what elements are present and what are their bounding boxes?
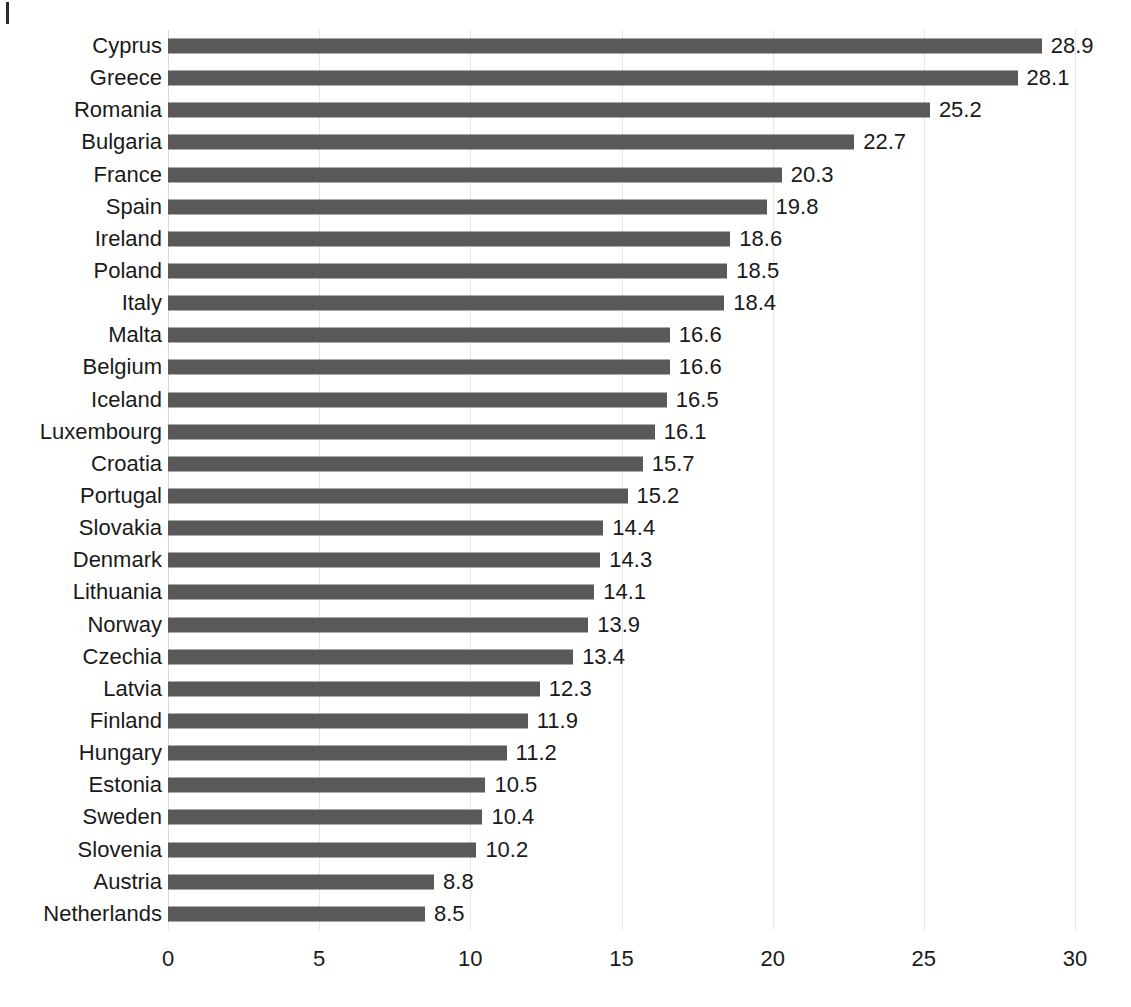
bar-row: Austria8.8 xyxy=(168,866,1075,898)
bar xyxy=(168,842,476,857)
category-label: Austria xyxy=(94,871,162,893)
bar xyxy=(168,553,600,568)
bar xyxy=(168,778,485,793)
x-tick-mark-5 xyxy=(319,922,320,930)
bar-row: Romania25.2 xyxy=(168,94,1075,126)
category-label: Italy xyxy=(122,292,162,314)
x-tick-label-15: 15 xyxy=(609,948,633,970)
bar-row: Finland11.9 xyxy=(168,705,1075,737)
x-tick-mark-30 xyxy=(1075,922,1076,930)
bar-row: Norway13.9 xyxy=(168,609,1075,641)
category-label: Finland xyxy=(90,710,162,732)
bar-value-label: 10.2 xyxy=(485,839,528,861)
category-label: Poland xyxy=(93,260,162,282)
category-label: Norway xyxy=(87,614,162,636)
bar xyxy=(168,71,1018,86)
category-label: Romania xyxy=(74,99,162,121)
category-label: Croatia xyxy=(91,453,162,475)
bar-row: Lithuania14.1 xyxy=(168,576,1075,608)
bar-value-label: 10.5 xyxy=(494,774,537,796)
bar-row: Poland18.5 xyxy=(168,255,1075,287)
x-tick-label-0: 0 xyxy=(162,948,174,970)
bar-value-label: 22.7 xyxy=(863,131,906,153)
bar-row: Hungary11.2 xyxy=(168,737,1075,769)
category-label: Latvia xyxy=(103,678,162,700)
x-tick-label-30: 30 xyxy=(1063,948,1087,970)
category-label: Czechia xyxy=(83,646,162,668)
x-axis: 051015202530 xyxy=(168,930,1075,990)
bar-value-label: 10.4 xyxy=(491,806,534,828)
bar-row: Sweden10.4 xyxy=(168,801,1075,833)
category-label: Bulgaria xyxy=(81,131,162,153)
bar xyxy=(168,714,528,729)
bar xyxy=(168,521,603,536)
bar-value-label: 25.2 xyxy=(939,99,982,121)
bar-value-label: 18.4 xyxy=(733,292,776,314)
bar-row: Luxembourg16.1 xyxy=(168,416,1075,448)
bar-value-label: 13.4 xyxy=(582,646,625,668)
category-label: France xyxy=(94,164,162,186)
bar xyxy=(168,199,767,214)
category-label: Sweden xyxy=(82,806,162,828)
bar xyxy=(168,264,727,279)
bar xyxy=(168,103,930,118)
bar xyxy=(168,360,670,375)
bar-row: Italy18.4 xyxy=(168,287,1075,319)
bar xyxy=(168,649,573,664)
bar-chart-figure: Cyprus28.9Greece28.1Romania25.2Bulgaria2… xyxy=(0,0,1131,1007)
bar-value-label: 18.5 xyxy=(736,260,779,282)
category-label: Portugal xyxy=(80,485,162,507)
bar-value-label: 15.2 xyxy=(637,485,680,507)
bar-value-label: 19.8 xyxy=(776,196,819,218)
bar xyxy=(168,167,782,182)
bar-value-label: 13.9 xyxy=(597,614,640,636)
bar-value-label: 14.1 xyxy=(603,581,646,603)
bar xyxy=(168,585,594,600)
bar-row: Malta16.6 xyxy=(168,319,1075,351)
bar-value-label: 18.6 xyxy=(739,228,782,250)
bar xyxy=(168,135,854,150)
x-tick-label-5: 5 xyxy=(313,948,325,970)
bar-value-label: 8.8 xyxy=(443,871,474,893)
bar-row: Estonia10.5 xyxy=(168,769,1075,801)
bar xyxy=(168,296,724,311)
bar-row: Belgium16.6 xyxy=(168,351,1075,383)
bar-row: Slovenia10.2 xyxy=(168,834,1075,866)
category-label: Greece xyxy=(90,67,162,89)
x-tick-label-10: 10 xyxy=(458,948,482,970)
corner-tick-mark xyxy=(6,2,9,24)
bar-value-label: 16.1 xyxy=(664,421,707,443)
category-label: Spain xyxy=(106,196,162,218)
bar-value-label: 14.3 xyxy=(609,549,652,571)
bar-row: Iceland16.5 xyxy=(168,384,1075,416)
bar-row: Spain19.8 xyxy=(168,191,1075,223)
category-label: Iceland xyxy=(91,389,162,411)
bar-value-label: 14.4 xyxy=(612,517,655,539)
bar xyxy=(168,617,588,632)
bar-value-label: 11.9 xyxy=(537,710,578,732)
bar-value-label: 8.5 xyxy=(434,903,465,925)
x-tick-mark-25 xyxy=(924,922,925,930)
bar-row: Latvia12.3 xyxy=(168,673,1075,705)
bar-value-label: 16.5 xyxy=(676,389,719,411)
x-tick-mark-10 xyxy=(470,922,471,930)
x-tick-label-25: 25 xyxy=(912,948,936,970)
bar xyxy=(168,39,1042,54)
bar-row: France20.3 xyxy=(168,159,1075,191)
bar xyxy=(168,328,670,343)
x-tick-mark-20 xyxy=(773,922,774,930)
bar-value-label: 16.6 xyxy=(679,324,722,346)
category-label: Lithuania xyxy=(73,581,162,603)
bar-row: Czechia13.4 xyxy=(168,641,1075,673)
bar-value-label: 15.7 xyxy=(652,453,695,475)
x-tick-mark-15 xyxy=(622,922,623,930)
bar xyxy=(168,746,507,761)
bar-row: Greece28.1 xyxy=(168,62,1075,94)
category-label: Malta xyxy=(108,324,162,346)
bar-row: Bulgaria22.7 xyxy=(168,126,1075,158)
bar-row: Cyprus28.9 xyxy=(168,30,1075,62)
plot-area: Cyprus28.9Greece28.1Romania25.2Bulgaria2… xyxy=(168,30,1075,930)
bar-row: Denmark14.3 xyxy=(168,544,1075,576)
bar xyxy=(168,906,425,921)
bar xyxy=(168,424,655,439)
